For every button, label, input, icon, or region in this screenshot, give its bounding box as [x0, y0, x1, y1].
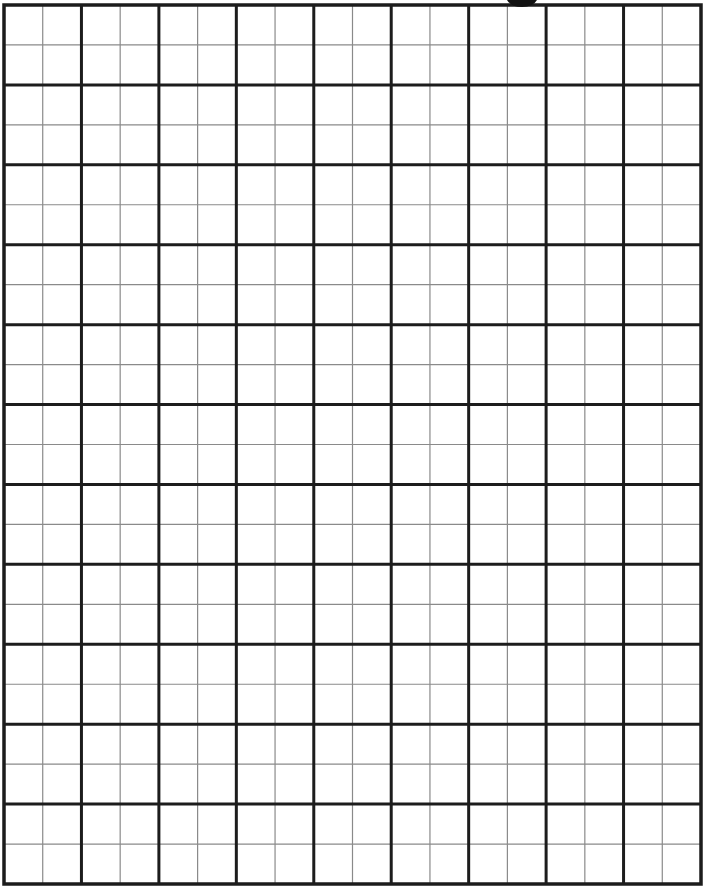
graph-paper-grid: [0, 0, 705, 887]
